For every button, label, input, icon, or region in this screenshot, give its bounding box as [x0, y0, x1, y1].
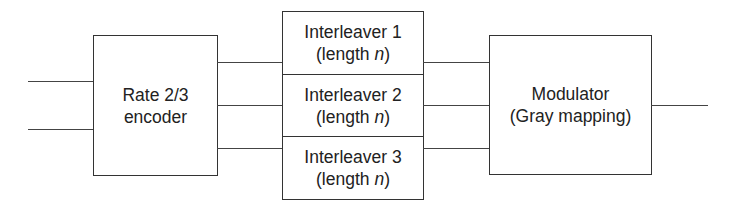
interleaver-3-length: (length n) [316, 168, 390, 190]
encoder-to-interleaver-1-wire [217, 62, 283, 63]
encoder-label-line1: Rate 2/3 [122, 84, 188, 106]
block-diagram: Rate 2/3 encoder Interleaver 1 (length n… [0, 0, 735, 206]
encoder-block: Rate 2/3 encoder [93, 35, 218, 176]
encoder-to-interleaver-2-wire [217, 105, 283, 106]
interleaver-1-title: Interleaver 1 [304, 21, 401, 43]
interleaver-3-title: Interleaver 3 [304, 146, 401, 168]
modulator-label-line1: Modulator [532, 83, 610, 105]
output-wire [651, 105, 708, 106]
interleaver-3-block: Interleaver 3 (length n) [283, 137, 423, 199]
interleaver-2-block: Interleaver 2 (length n) [283, 75, 423, 138]
interleaver-stack: Interleaver 1 (length n) Interleaver 2 (… [282, 11, 424, 200]
encoder-label-line2: encoder [124, 106, 187, 128]
modulator-label-line2: (Gray mapping) [510, 105, 632, 127]
input-wire-2 [28, 129, 93, 130]
interleaver-1-length: (length n) [316, 43, 390, 65]
interleaver-3-to-modulator-wire [423, 148, 490, 149]
interleaver-1-to-modulator-wire [423, 62, 490, 63]
interleaver-2-length: (length n) [316, 106, 390, 128]
modulator-block: Modulator (Gray mapping) [489, 35, 652, 175]
input-wire-1 [28, 81, 93, 82]
encoder-to-interleaver-3-wire [217, 148, 283, 149]
interleaver-2-to-modulator-wire [423, 105, 490, 106]
interleaver-1-block: Interleaver 1 (length n) [283, 12, 423, 75]
interleaver-2-title: Interleaver 2 [304, 84, 401, 106]
